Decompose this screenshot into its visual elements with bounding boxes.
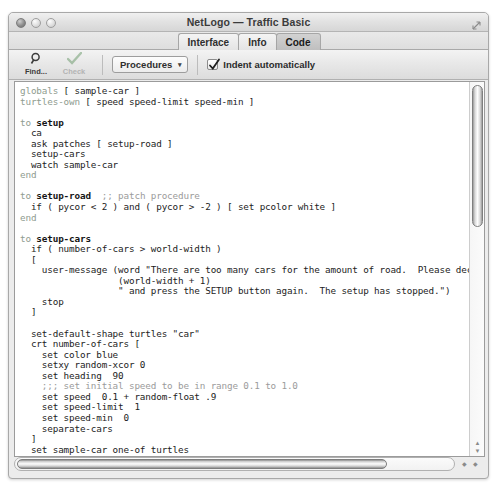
tab-code[interactable]: Code: [276, 33, 321, 50]
code-toolbar: Find... Check Procedures ▾: [9, 50, 488, 80]
vertical-scrollbar-thumb[interactable]: [472, 85, 483, 227]
horizontal-scrollbar-row: ◆ ◆: [14, 456, 485, 472]
procedures-dropdown-label: Procedures: [120, 59, 172, 70]
indent-automatically-checkbox[interactable]: Indent automatically: [207, 59, 315, 70]
scroll-down-arrow-icon[interactable]: ▼: [475, 449, 481, 454]
code-source[interactable]: globals [ sample-car ] turtles-own [ spe…: [15, 82, 469, 456]
tab-interface[interactable]: Interface: [177, 33, 239, 50]
tab-info[interactable]: Info: [238, 33, 276, 50]
window-titlebar[interactable]: NetLogo — Traffic Basic: [9, 13, 488, 32]
resize-corner-icon: [471, 17, 482, 28]
scroll-right-arrow-icon[interactable]: ◆: [473, 461, 478, 467]
horizontal-scrollbar-thumb[interactable]: [17, 459, 387, 469]
find-button-label: Find...: [25, 67, 47, 76]
check-button[interactable]: Check: [55, 51, 93, 79]
vertical-scrollbar[interactable]: ▲ ▼: [469, 82, 484, 456]
vertical-scrollbar-arrows[interactable]: ▲ ▼: [470, 441, 485, 454]
horizontal-scrollbar-arrows[interactable]: ◆ ◆: [455, 461, 485, 467]
netlogo-code-editor-screenshot: NetLogo — Traffic Basic Interface Info C…: [0, 0, 497, 495]
chevron-down-icon: ▾: [178, 61, 182, 68]
magnifier-icon: [30, 52, 43, 66]
window-title: NetLogo — Traffic Basic: [9, 16, 488, 28]
code-editor-frame: globals [ sample-car ] turtles-own [ spe…: [14, 81, 485, 457]
checkmark-icon: [67, 52, 82, 66]
procedures-dropdown[interactable]: Procedures ▾: [112, 56, 188, 73]
netlogo-window: NetLogo — Traffic Basic Interface Info C…: [8, 12, 489, 479]
checkbox-checked-icon: [207, 59, 218, 70]
scroll-up-arrow-icon[interactable]: ▲: [475, 441, 481, 446]
horizontal-scrollbar[interactable]: [14, 457, 455, 471]
toolbar-divider-1: [102, 55, 103, 75]
toolbar-divider-2: [197, 55, 198, 75]
tab-strip: Interface Info Code: [9, 32, 488, 50]
indent-automatically-label: Indent automatically: [223, 59, 315, 70]
check-button-label: Check: [63, 67, 86, 76]
find-button[interactable]: Find...: [17, 51, 55, 79]
tab-list: Interface Info Code: [177, 32, 319, 50]
scroll-left-arrow-icon[interactable]: ◆: [462, 461, 467, 467]
code-text-area[interactable]: globals [ sample-car ] turtles-own [ spe…: [15, 82, 469, 456]
